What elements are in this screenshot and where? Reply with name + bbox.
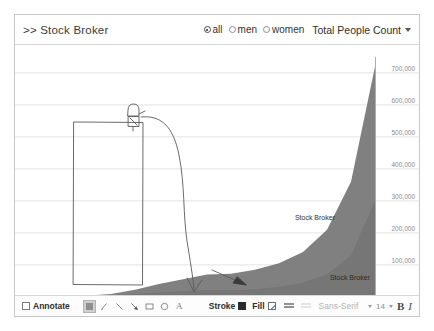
- panel-header: >> Stock Broker all men women Total Peop…: [15, 15, 419, 45]
- fill-label: Fill: [252, 301, 264, 311]
- font-size-control[interactable]: 14 B I: [368, 300, 412, 312]
- annotate-checkbox[interactable]: Annotate: [22, 301, 70, 311]
- y-axis-ticks: 700,000 600,000 500,000 400,000 300,000 …: [392, 65, 416, 264]
- metric-dropdown-label: Total People Count: [312, 24, 401, 36]
- stroke-control[interactable]: Stroke: [209, 301, 246, 311]
- annotation-stick-figure-head[interactable]: [128, 104, 139, 116]
- annotation-stick-figure-arm[interactable]: [139, 111, 145, 114]
- y-tick-label: 600,000: [392, 97, 416, 104]
- chevron-down-icon: [405, 28, 411, 32]
- fill-color-swatch[interactable]: [268, 302, 276, 310]
- drawing-tools[interactable]: A: [82, 300, 187, 313]
- radio-option-all[interactable]: all: [204, 24, 223, 35]
- annotation-layer[interactable]: [74, 104, 247, 292]
- stock-broker-panel: >> Stock Broker all men women Total Peop…: [14, 14, 420, 317]
- y-tick-label: 300,000: [392, 193, 416, 200]
- checkbox-icon[interactable]: [22, 302, 30, 310]
- area-series-upper: [15, 67, 375, 296]
- page-title: >> Stock Broker: [23, 24, 108, 36]
- annotation-curved-arrow[interactable]: [141, 117, 194, 290]
- radio-label-women: women: [272, 24, 304, 35]
- header-controls: all men women Total People Count: [204, 23, 413, 37]
- area-chart[interactable]: Stock Broker Stock Broker 700,000 600,00…: [15, 45, 419, 295]
- font-size-value[interactable]: 14: [376, 302, 385, 311]
- annotate-label: Annotate: [33, 301, 70, 311]
- metric-dropdown[interactable]: Total People Count: [310, 23, 413, 37]
- bold-button[interactable]: B: [397, 300, 404, 312]
- line-width-control[interactable]: [283, 301, 312, 312]
- radio-dot-icon[interactable]: [204, 26, 211, 33]
- annotation-rectangle[interactable]: [74, 122, 144, 285]
- y-tick-label: 200,000: [392, 225, 416, 232]
- chart-right-edge: [375, 57, 376, 295]
- annotation-toolbar[interactable]: Annotate: [15, 295, 419, 316]
- line-width-thin-icon[interactable]: [300, 301, 312, 312]
- stroke-color-swatch[interactable]: [238, 302, 246, 310]
- stroke-label: Stroke: [209, 301, 235, 311]
- line-tool-icon[interactable]: [113, 300, 126, 313]
- radio-option-women[interactable]: women: [263, 24, 304, 35]
- line-width-thick-icon[interactable]: [283, 301, 295, 312]
- series-label-upper: Stock Broker: [295, 214, 336, 221]
- select-tool-icon[interactable]: [83, 300, 96, 313]
- chevron-down-icon[interactable]: [368, 305, 372, 308]
- arrow-tool-icon[interactable]: [128, 300, 141, 313]
- chevron-down-icon[interactable]: [389, 305, 393, 308]
- y-tick-label: 500,000: [392, 129, 416, 136]
- radio-label-all: all: [213, 24, 223, 35]
- italic-button[interactable]: I: [408, 300, 412, 312]
- pencil-tool-icon[interactable]: [98, 300, 111, 313]
- font-family-dropdown[interactable]: Sans-Serif: [319, 301, 359, 311]
- series-label-lower: Stock Broker: [330, 274, 371, 281]
- radio-label-men: men: [238, 24, 257, 35]
- y-tick-label: 100,000: [392, 257, 416, 264]
- y-tick-label: 400,000: [392, 161, 416, 168]
- gender-radio-group[interactable]: all men women: [204, 24, 305, 35]
- text-tool-icon[interactable]: A: [173, 300, 186, 313]
- annotation-stick-figure-detail[interactable]: [130, 118, 137, 125]
- chart-canvas[interactable]: Stock Broker Stock Broker 700,000 600,00…: [15, 45, 419, 295]
- radio-option-men[interactable]: men: [229, 24, 257, 35]
- radio-dot-icon[interactable]: [263, 26, 270, 33]
- rectangle-tool-icon[interactable]: [143, 300, 156, 313]
- ellipse-tool-icon[interactable]: [158, 300, 171, 313]
- fill-control[interactable]: Fill: [252, 301, 275, 311]
- radio-dot-icon[interactable]: [229, 26, 236, 33]
- y-tick-label: 700,000: [392, 65, 416, 72]
